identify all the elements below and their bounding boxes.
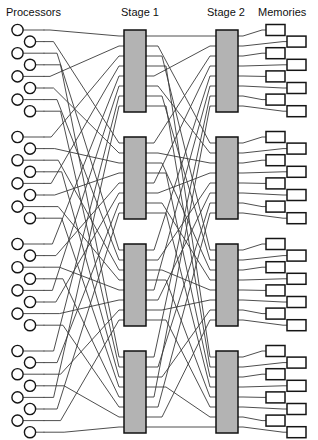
processor-node [12,94,23,105]
stage1-to-stage2-wire [146,106,216,397]
column-header-memories: Memories [258,6,307,18]
memory-module [287,427,306,438]
stage2-to-memory-wire [238,386,287,387]
memory-module [287,213,306,224]
memory-module [287,166,306,177]
processor-node [24,166,35,177]
processor-node [24,403,35,414]
processor-node [24,320,35,331]
stage2-to-memory-wire [238,374,266,377]
stage2-to-memory-wire [238,96,266,100]
memory-module [287,250,306,261]
memory-module [266,392,285,403]
stage2-to-memory-wire [238,320,287,325]
memory-module [287,297,306,308]
stage2-switch [216,137,238,219]
memory-module [266,94,285,105]
stage2-to-memory-wire [238,137,266,143]
label-layer: ProcessorsStage 1Stage 2Memories [6,6,307,18]
processor-node [12,155,23,166]
processor-node [12,308,23,319]
processor-to-stage1-wire [44,193,124,302]
processor-node [24,106,35,117]
stage2-to-memory-wire [238,256,287,260]
memory-module [266,201,285,212]
diagram-canvas: ProcessorsStage 1Stage 2Memories [0,0,318,440]
stage2-to-memory-wire [238,279,287,280]
memory-module [287,106,306,117]
processor-node [24,189,35,200]
stage2-to-memory-wire [238,42,287,46]
stage1-to-stage2-wire [146,387,216,417]
stage2-to-memory-wire [238,172,287,173]
memory-module [266,48,285,59]
memory-module [266,346,285,357]
stage2-to-memory-wire [238,351,266,357]
memory-module [266,369,285,380]
stage1-switch [124,351,146,433]
processor-to-stage1-wire [44,42,124,143]
processor-node [12,131,23,142]
stage2-to-memory-wire [238,244,266,250]
processor-to-stage1-wire [44,149,124,163]
processor-node [24,250,35,261]
processor-node [12,285,23,296]
processor-node [12,201,23,212]
processor-to-stage1-wire [44,218,124,387]
processor-node [24,143,35,154]
memory-module [266,132,285,143]
processor-node [24,82,35,93]
network-diagram: ProcessorsStage 1Stage 2Memories [0,0,318,440]
stage2-to-memory-wire [238,53,266,56]
memory-module [287,380,306,391]
column-header-processors: Processors [6,6,62,18]
processor-node [12,178,23,189]
stage2-to-memory-wire [238,267,266,270]
memory-module [266,178,285,189]
processor-node [12,262,23,273]
stage2-to-memory-wire [238,417,266,421]
stage1-to-stage2-wire [146,66,216,357]
processor-to-stage1-wire [44,207,124,280]
processor-node [24,357,35,368]
processor-node [12,48,23,59]
stage1-switch [124,137,146,219]
column-header-stage1: Stage 1 [121,6,159,18]
processor-node [24,213,35,224]
processor-to-stage1-wire [44,427,124,432]
stage1-to-stage2-wire [146,193,216,300]
wire-layer [23,30,287,432]
memory-module [266,415,285,426]
processor-node [24,427,35,438]
stage2-to-memory-wire [238,203,266,207]
node-layer [12,24,306,437]
memory-module [287,404,306,415]
stage2-to-memory-wire [238,213,287,218]
memory-module [287,320,306,331]
processor-node [12,392,23,403]
memory-module [266,25,285,36]
memory-module [287,83,306,94]
memory-module [266,285,285,296]
stage2-to-memory-wire [238,86,287,88]
stage2-to-memory-wire [238,65,287,66]
processor-to-stage1-wire [44,86,124,290]
processor-node [12,369,23,380]
stage2-to-memory-wire [238,310,266,314]
processor-node [12,415,23,426]
processor-to-stage1-wire [44,46,124,76]
processor-node [24,59,35,70]
stage2-switch [216,244,238,326]
stage2-switch [216,351,238,433]
processor-node [12,238,23,249]
processor-node [24,36,35,47]
processor-node [12,24,23,35]
processor-to-stage1-wire [44,386,124,417]
stage1-switch [124,244,146,326]
column-header-stage2: Stage 2 [207,6,245,18]
stage1-to-stage2-wire [146,320,216,407]
processor-node [24,296,35,307]
processor-node [12,345,23,356]
stage2-to-memory-wire [238,427,287,432]
memory-module [266,239,285,250]
